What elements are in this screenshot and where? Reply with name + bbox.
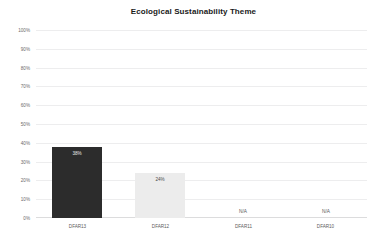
bar-chart: Ecological Sustainability Theme 0%10%20%… — [0, 0, 387, 248]
y-axis-tick-label: 30% — [0, 160, 30, 165]
gridline — [36, 124, 367, 125]
gridline — [36, 30, 367, 31]
y-axis-tick-label: 100% — [0, 28, 30, 33]
bar-value-label: 38% — [52, 151, 102, 156]
y-axis-tick-label: 60% — [0, 103, 30, 108]
plot-area: 38%24%N/AN/A — [36, 30, 367, 218]
gridline — [36, 143, 367, 144]
x-axis-tick-label: DFAR13 — [36, 224, 119, 230]
gridline — [36, 86, 367, 87]
gridline — [36, 68, 367, 69]
x-axis-tick-label: DFAR11 — [202, 224, 285, 230]
no-data-label: N/A — [218, 209, 268, 215]
bar[interactable]: 24% — [135, 173, 185, 218]
gridline — [36, 105, 367, 106]
y-axis-tick-label: 10% — [0, 197, 30, 202]
y-axis-tick-label: 70% — [0, 84, 30, 89]
x-axis: DFAR13DFAR12DFAR11DFAR10 — [36, 221, 367, 235]
y-axis-tick-label: 90% — [0, 47, 30, 52]
y-axis: 0%10%20%30%40%50%60%70%80%90%100% — [0, 30, 34, 218]
y-axis-tick-label: 20% — [0, 178, 30, 183]
x-axis-tick-label: DFAR10 — [284, 224, 367, 230]
y-axis-tick-label: 0% — [0, 216, 30, 221]
y-axis-tick-label: 50% — [0, 122, 30, 127]
bar-value-label: 24% — [135, 177, 185, 182]
x-axis-tick-label: DFAR12 — [119, 224, 202, 230]
y-axis-tick-label: 40% — [0, 141, 30, 146]
no-data-label: N/A — [301, 209, 351, 215]
y-axis-tick-label: 80% — [0, 66, 30, 71]
bar[interactable]: 38% — [52, 147, 102, 218]
gridline — [36, 49, 367, 50]
chart-title: Ecological Sustainability Theme — [0, 7, 387, 17]
